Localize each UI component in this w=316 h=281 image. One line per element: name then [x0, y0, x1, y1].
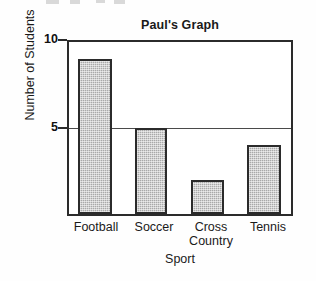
x-tick-label-soccer: Soccer: [123, 220, 185, 234]
scan-artifact: [46, 0, 59, 4]
x-tick-label-football: Football: [60, 220, 132, 234]
chart-title: Paul's Graph: [67, 18, 293, 32]
x-tick-label-cross-text: Cross: [181, 220, 241, 234]
y-tick-5: 5: [0, 121, 58, 135]
scan-artifact: [70, 0, 80, 4]
y-tick-label-5: 5: [24, 121, 58, 134]
y-tick-mark-10: [58, 39, 67, 41]
scan-artifact: [96, 0, 105, 3]
x-tick-label-tennis-text: Tennis: [239, 220, 297, 234]
y-tick-10: 10: [0, 33, 58, 47]
x-tick-label-cross-country: Cross Country: [181, 220, 241, 248]
scan-artifact: [114, 0, 125, 4]
x-tick-label-soccer-text: Soccer: [123, 220, 185, 234]
bar-football: [78, 59, 112, 214]
bar-tennis: [247, 145, 281, 214]
y-tick-mark-5: [58, 127, 67, 129]
bar-chart-figure: Paul's Graph Number of Students 10 5 Foo…: [0, 0, 316, 281]
x-tick-label-country-text: Country: [181, 234, 241, 248]
y-tick-label-10: 10: [24, 33, 58, 46]
bar-soccer: [135, 128, 167, 214]
plot-area: [67, 40, 293, 216]
x-tick-label-football-text: Football: [60, 220, 132, 234]
x-tick-label-tennis: Tennis: [239, 220, 297, 234]
x-axis-title: Sport: [67, 252, 293, 266]
bar-cross-country: [191, 180, 224, 214]
